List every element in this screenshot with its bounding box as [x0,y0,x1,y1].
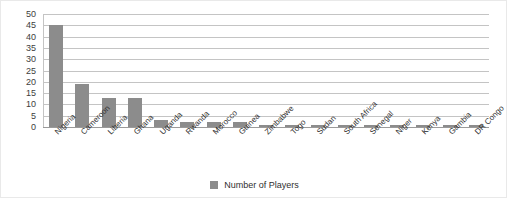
y-tick-label-5: 5 [31,111,36,120]
y-tick-label-0: 0 [31,123,36,132]
y-tick-label-40: 40 [26,32,36,41]
y-tick-label-45: 45 [26,21,36,30]
bar-nigeria [49,25,63,127]
y-axis-tick-labels: 50454035302520151050 [1,1,41,140]
y-tick-label-25: 25 [26,66,36,75]
y-tick-label-35: 35 [26,43,36,52]
legend-color-swatch [210,181,218,189]
x-axis-category-labels: NigeriaCameroonLiberiaGhanaUgandaRwandaM… [43,128,489,176]
legend-label: Number of Players [224,180,299,190]
bar-chart: 50454035302520151050 NigeriaCameroonLibe… [0,0,507,198]
y-tick-label-10: 10 [26,100,36,109]
y-tick-label-20: 20 [26,77,36,86]
y-tick-label-30: 30 [26,55,36,64]
y-tick-label-50: 50 [26,10,36,19]
chart-legend: Number of Players [1,177,507,193]
y-tick-label-15: 15 [26,89,36,98]
